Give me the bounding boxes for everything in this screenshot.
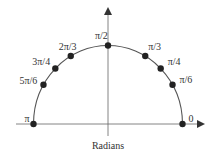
point-label-0: 0 — [189, 113, 194, 124]
point-label-3pi-4: 3π/4 — [32, 56, 50, 67]
point-label-pi-2: π/2 — [95, 30, 108, 41]
point-3pi-4 — [52, 65, 58, 71]
point-pi — [30, 121, 36, 127]
radian-semicircle-diagram: 0π/6π/4π/3π/22π/33π/45π/6π Radians — [0, 0, 211, 161]
point-pi-4 — [157, 65, 163, 71]
point-pi-2 — [105, 42, 111, 48]
point-5pi-6 — [40, 82, 46, 88]
point-label-pi-6: π/6 — [180, 74, 193, 85]
point-label-2pi-3: 2π/3 — [59, 41, 77, 52]
point-2pi-3 — [68, 53, 74, 59]
angle-points: 0π/6π/4π/3π/22π/33π/45π/6π — [19, 30, 193, 128]
point-label-pi: π — [25, 113, 30, 124]
point-pi-6 — [169, 82, 175, 88]
point-label-pi-3: π/3 — [148, 41, 161, 52]
point-label-5pi-6: 5π/6 — [19, 75, 37, 86]
axis-label-radians: Radians — [92, 140, 124, 151]
point-label-pi-4: π/4 — [168, 56, 181, 67]
point-0 — [179, 121, 185, 127]
point-pi-3 — [142, 53, 148, 59]
